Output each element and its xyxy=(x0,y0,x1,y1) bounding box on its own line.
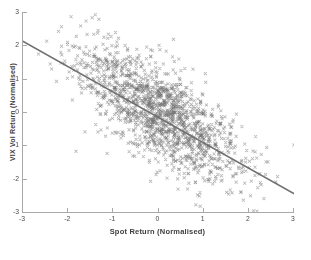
x-tick-mark xyxy=(158,208,159,212)
x-tick-label: -3 xyxy=(13,216,31,223)
y-tick-label: 3 xyxy=(3,9,19,16)
y-tick-mark xyxy=(23,79,27,80)
x-tick-mark xyxy=(248,208,249,212)
y-tick-label: 0 xyxy=(3,109,19,116)
y-tick-label: -3 xyxy=(3,209,19,216)
x-tick-mark xyxy=(203,208,204,212)
scatter-canvas xyxy=(23,12,294,212)
y-tick-mark xyxy=(23,12,27,13)
x-tick-label: 0 xyxy=(149,216,167,223)
x-tick-label: -2 xyxy=(58,216,76,223)
x-axis-label: Spot Return (Normalised) xyxy=(22,227,293,236)
y-tick-mark xyxy=(23,45,27,46)
y-tick-mark xyxy=(23,112,27,113)
y-tick-mark xyxy=(23,145,27,146)
y-tick-label: 1 xyxy=(3,76,19,83)
x-tick-mark xyxy=(293,208,294,212)
y-tick-mark xyxy=(23,212,27,213)
x-tick-label: -1 xyxy=(103,216,121,223)
x-tick-label: 1 xyxy=(194,216,212,223)
x-tick-label: 3 xyxy=(284,216,302,223)
y-tick-label: -2 xyxy=(3,176,19,183)
x-tick-label: 2 xyxy=(239,216,257,223)
y-tick-label: -1 xyxy=(3,142,19,149)
y-tick-mark xyxy=(23,179,27,180)
scatter-figure: VIX Vol Return (Normalised) -3-2-10123-3… xyxy=(0,0,311,260)
y-tick-label: 2 xyxy=(3,42,19,49)
plot-area xyxy=(22,12,294,213)
x-tick-mark xyxy=(67,208,68,212)
x-tick-mark xyxy=(112,208,113,212)
